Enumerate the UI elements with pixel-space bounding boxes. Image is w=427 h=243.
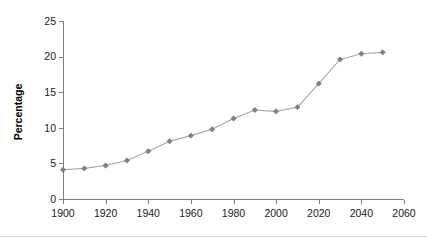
y-axis-title: Percentage	[12, 84, 24, 141]
y-axis-tick-label: 10	[44, 122, 56, 134]
y-axis-tick-label: 5	[50, 157, 56, 169]
x-axis-tick-label: 2020	[307, 207, 331, 219]
line-chart: 0510152025 19001920194019601980200020202…	[0, 0, 427, 243]
y-axis-tick-label: 0	[50, 193, 56, 205]
y-axis-tick-label: 20	[44, 50, 56, 62]
x-axis-tick-label: 1960	[179, 207, 203, 219]
x-axis-tick-label: 1900	[51, 207, 75, 219]
x-axis-tick-label: 2000	[264, 207, 288, 219]
x-axis-tick-label: 1920	[94, 207, 118, 219]
y-axis-tick-label: 25	[44, 15, 56, 27]
x-axis-tick-label: 1980	[222, 207, 246, 219]
x-axis-tick-label: 2060	[392, 207, 416, 219]
x-axis-tick-label: 2040	[350, 207, 374, 219]
chart-canvas: 0510152025 19001920194019601980200020202…	[0, 0, 427, 243]
x-axis-tick-label: 1940	[137, 207, 161, 219]
y-axis-tick-label: 15	[44, 86, 56, 98]
